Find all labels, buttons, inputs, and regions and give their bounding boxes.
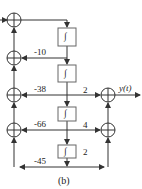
gain-label: 2 [83,86,88,95]
integrator-2: ∫ [64,69,66,78]
gain-label: 4 [83,121,88,130]
diagram-lines [0,0,142,189]
gain-label: -10 [34,48,46,57]
gain-label: -66 [34,120,46,129]
integrator-3: ∫ [64,109,66,118]
gain-label: -38 [34,85,46,94]
block-diagram: ∫ ∫ ∫ ∫ -10 -38 -66 -45 2 4 2 y(t) (b) [0,0,142,189]
figure-caption: (b) [58,176,70,186]
gain-label: -45 [34,157,46,166]
gain-label: 2 [83,148,88,157]
integrator-4: ∫ [64,147,66,156]
output-label: y(t) [119,84,132,93]
integrator-1: ∫ [64,32,66,41]
